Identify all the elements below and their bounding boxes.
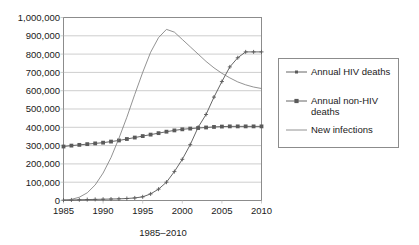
chart-legend[interactable]: Annual HIV deathsAnnual non-HIVdeathsNew… (279, 59, 399, 148)
x-axis-tick-label: 1985 (53, 205, 74, 216)
series-line (64, 126, 262, 146)
legend-swatch-marker (294, 99, 298, 103)
x-axis-title: 1985–2010 (139, 227, 187, 238)
data-point-marker (172, 129, 176, 133)
data-point-marker (260, 124, 264, 128)
y-axis-tick-label: 400,000 (26, 122, 60, 133)
legend-item-label: Annual HIV deaths (311, 66, 390, 77)
data-point-marker (252, 50, 256, 54)
y-axis-tick-label: 700,000 (26, 67, 60, 78)
data-point-marker (204, 126, 208, 130)
data-point-marker (149, 133, 153, 137)
series-annual-non-hiv-deaths (62, 124, 264, 148)
x-axis-tick-label: 1990 (93, 205, 114, 216)
legend-item-label: New infections (311, 124, 373, 135)
data-point-marker (141, 134, 145, 138)
data-point-marker (212, 125, 216, 129)
data-point-marker (85, 142, 89, 146)
data-point-marker (93, 142, 97, 146)
y-axis-tick-label: 500,000 (26, 103, 60, 114)
data-point-marker (77, 143, 81, 147)
gridlines (64, 18, 262, 183)
data-point-marker (125, 137, 129, 141)
data-point-marker (133, 196, 137, 200)
data-point-marker (125, 196, 129, 200)
y-axis-tick-label: 100,000 (26, 177, 60, 188)
x-axis-tick-label: 2005 (211, 205, 232, 216)
data-point-marker (62, 145, 66, 149)
data-point-marker (157, 131, 161, 135)
data-series-group (62, 29, 264, 202)
data-point-marker (220, 125, 224, 129)
data-point-marker (165, 130, 169, 134)
y-axis-tick-labels: 0100,000200,000300,000400,000500,000600,… (18, 12, 64, 206)
data-point-marker (204, 112, 208, 116)
data-point-marker (141, 195, 145, 199)
y-axis-tick-label: 600,000 (26, 85, 60, 96)
x-axis-tick-label: 2000 (172, 205, 193, 216)
data-point-marker (236, 124, 240, 128)
data-point-marker (188, 127, 192, 131)
data-point-marker (180, 127, 184, 131)
data-point-marker (260, 50, 264, 54)
data-point-marker (77, 198, 81, 202)
legend-swatch-marker (295, 71, 298, 74)
data-point-marker (69, 198, 73, 202)
data-point-marker (244, 124, 248, 128)
data-point-marker (101, 141, 105, 145)
data-point-marker (149, 192, 153, 196)
y-axis-tick-label: 900,000 (26, 30, 60, 41)
data-point-marker (212, 95, 216, 99)
x-axis-tick-labels: 198519901995200020052010 (53, 201, 272, 216)
data-point-marker (220, 80, 224, 84)
data-point-marker (109, 140, 113, 144)
data-point-marker (70, 144, 74, 148)
data-point-marker (228, 124, 232, 128)
x-axis-tick-label: 2010 (251, 205, 272, 216)
y-axis-tick-label: 300,000 (26, 140, 60, 151)
data-point-marker (188, 143, 192, 147)
chart-figure: 0100,000200,000300,000400,000500,000600,… (0, 0, 419, 245)
series-line (64, 29, 262, 200)
data-point-marker (196, 126, 200, 130)
y-axis-tick-label: 800,000 (26, 49, 60, 60)
y-axis-tick-label: 1,000,000 (18, 12, 60, 23)
data-point-marker (252, 124, 256, 128)
chart-container: 0100,000200,000300,000400,000500,000600,… (0, 0, 419, 245)
data-point-marker (133, 136, 137, 140)
x-axis-tick-label: 1995 (132, 205, 153, 216)
y-axis-tick-label: 200,000 (26, 158, 60, 169)
series-new-infections (64, 29, 262, 200)
